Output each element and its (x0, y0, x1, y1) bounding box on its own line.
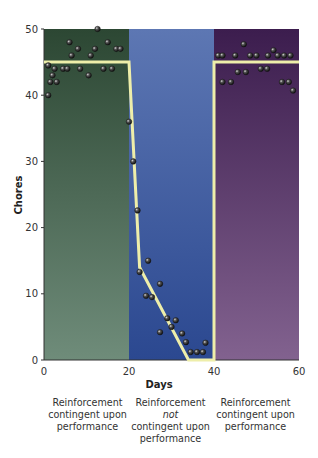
phase-label-line: contingent upon (208, 409, 303, 421)
y-tick-label: 10 (25, 288, 38, 299)
phase-background-1 (44, 29, 129, 360)
data-point (54, 79, 60, 85)
data-point (173, 317, 179, 323)
data-point (194, 349, 200, 355)
data-point (286, 79, 292, 85)
data-point (118, 46, 124, 52)
data-point (200, 349, 206, 355)
phase-background-3 (214, 29, 299, 360)
phase-label-3: Reinforcement contingent upon performanc… (208, 397, 303, 433)
x-tick-label: 40 (208, 366, 221, 377)
data-point (105, 39, 111, 45)
y-axis-label: Chores (13, 175, 24, 214)
data-point (264, 66, 270, 72)
data-point (164, 315, 170, 321)
data-point (145, 258, 151, 264)
data-point (235, 69, 241, 75)
phase-label-line: contingent upon (40, 409, 135, 421)
data-point (65, 66, 71, 72)
phase-label-line: performance (123, 433, 218, 445)
data-point (75, 46, 81, 52)
data-point (101, 66, 107, 72)
y-tick-label: 0 (32, 355, 38, 366)
data-point (130, 159, 136, 165)
phase-label-line: performance (208, 421, 303, 433)
data-point (220, 79, 226, 85)
data-point (288, 53, 294, 59)
data-point (77, 66, 83, 72)
data-point (169, 324, 175, 330)
y-tick-label: 20 (25, 222, 38, 233)
data-point (48, 79, 54, 85)
data-point (203, 340, 209, 346)
data-point (143, 293, 149, 299)
y-tick-label: 50 (25, 24, 38, 35)
data-point (271, 47, 277, 53)
phase-backgrounds (44, 29, 299, 360)
data-point (279, 79, 285, 85)
data-point (281, 53, 287, 59)
data-point (290, 88, 296, 94)
data-point (157, 281, 163, 287)
y-tick-label: 30 (25, 156, 38, 167)
phase-background-2 (129, 29, 214, 360)
x-tick-label: 20 (123, 366, 136, 377)
data-point (220, 53, 226, 59)
data-point (241, 41, 247, 47)
data-point (254, 53, 260, 59)
x-tick-label: 60 (293, 366, 306, 377)
phase-label-line: contingent upon (123, 421, 218, 433)
phase-label-line: Reinforcement (208, 397, 303, 409)
x-axis-label: Days (0, 379, 318, 390)
phase-label-1: Reinforcement contingent upon performanc… (40, 397, 135, 433)
data-point (109, 66, 115, 72)
data-point (95, 26, 101, 32)
data-point (157, 329, 163, 335)
data-point (69, 53, 75, 59)
phase-label-line: not (123, 409, 218, 421)
data-point (126, 119, 132, 125)
data-point (149, 294, 155, 300)
data-point (135, 208, 141, 214)
data-point (67, 39, 73, 45)
data-point (243, 69, 249, 75)
x-tick-label: 0 (41, 366, 47, 377)
data-point (50, 73, 56, 79)
data-point (88, 53, 94, 59)
data-point (137, 269, 143, 275)
data-point (258, 66, 264, 72)
data-point (265, 53, 271, 59)
phase-label-line: Reinforcement (40, 397, 135, 409)
data-point (179, 331, 185, 337)
data-point (45, 92, 51, 98)
y-tick-label: 40 (25, 90, 38, 101)
data-point (275, 53, 281, 59)
data-point (247, 53, 253, 59)
phase-label-2: Reinforcement not contingent upon perfor… (123, 397, 218, 445)
data-point (228, 79, 234, 85)
data-point (183, 339, 189, 345)
data-point (92, 46, 98, 52)
data-point (232, 53, 238, 59)
data-point (45, 63, 51, 69)
data-point (52, 66, 58, 72)
phase-label-line: Reinforcement (123, 397, 218, 409)
data-point (188, 349, 194, 355)
phase-label-line: performance (40, 421, 135, 433)
data-point (86, 73, 92, 79)
